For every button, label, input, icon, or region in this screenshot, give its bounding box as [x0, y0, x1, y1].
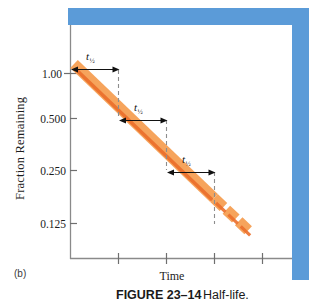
half-life-label-2: t½ — [134, 101, 143, 116]
y-tick-label-1: 1.00 — [42, 68, 62, 80]
x-axis-title: Time — [160, 269, 185, 283]
panel-letter: (b) — [14, 268, 26, 279]
y-tick-label-3: 0.250 — [40, 165, 66, 177]
half-life-chart: 1.00 0.500 0.250 0.125 Fraction Remainin… — [0, 0, 317, 304]
chart-axes — [70, 25, 292, 259]
y-tick-label-4: 0.125 — [40, 218, 66, 230]
decay-curve — [74, 64, 253, 238]
y-axis-tick-labels: 1.00 0.500 0.250 0.125 — [40, 68, 66, 230]
decay-curve-dashed-tail — [214, 198, 253, 238]
blue-accent-band — [68, 8, 309, 280]
figure-caption-number: FIGURE 23–14 — [116, 288, 202, 302]
y-tick-label-2: 0.500 — [40, 113, 66, 125]
figure-caption-text: Half-life. — [203, 288, 249, 302]
figure-panel: 1.00 0.500 0.250 0.125 Fraction Remainin… — [0, 0, 317, 304]
half-life-label-1: t½ — [86, 50, 95, 65]
y-axis-title: Fraction Remaining — [13, 96, 27, 200]
figure-caption: FIGURE 23–14 Half-life. — [116, 288, 249, 302]
